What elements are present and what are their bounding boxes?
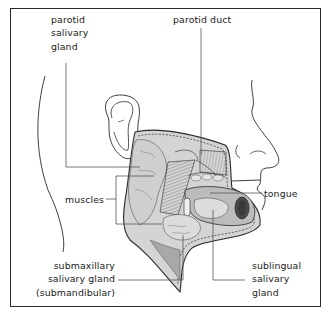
sublingual-gland [194,198,228,218]
label-parotid-salivary-gland: parotid salivary gland [51,13,88,53]
label-parotid-duct: parotid duct [173,13,231,26]
head-outline [38,76,64,252]
label-sublingual-salivary-gland: sublingual salivary gland [252,259,301,299]
label-muscles: muscles [60,193,104,206]
label-tongue: tongue [264,187,298,200]
label-submaxillary-salivary-gland: submaxillary salivary gland (submandibul… [20,259,115,299]
muscle-buccinator [200,150,226,175]
